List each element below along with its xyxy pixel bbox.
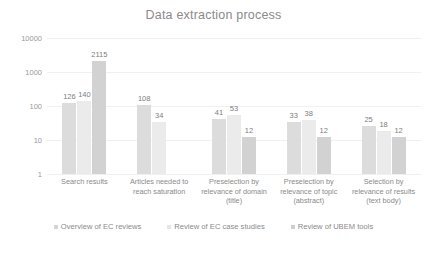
x-axis-category-label: Preselection byrelevance of domain(title…: [197, 177, 272, 206]
bar-slot: 41: [212, 38, 226, 174]
bar[interactable]: [212, 119, 226, 174]
bar-value-label: 25: [364, 115, 372, 124]
bar[interactable]: [317, 137, 331, 174]
bar-slot: [167, 38, 181, 174]
legend-item[interactable]: Review of EC case studies: [167, 222, 264, 231]
bar-group: 10834: [122, 38, 197, 174]
bar[interactable]: [77, 101, 91, 174]
bar-slot: 126: [62, 38, 76, 174]
legend-label: Review of EC case studies: [174, 222, 264, 231]
x-axis-category-label: Selection byrelevance of results(text bo…: [346, 177, 421, 206]
bar-value-label: 38: [305, 109, 313, 118]
bar-value-label: 41: [215, 108, 223, 117]
legend-item[interactable]: Overview of EC reviews: [54, 222, 142, 231]
legend-item[interactable]: Review of UBEM tools: [291, 222, 374, 231]
x-axis-category-label: Articles needed toreach saturation: [122, 177, 197, 196]
legend-swatch-icon: [167, 225, 171, 229]
bar-value-label: 33: [290, 111, 298, 120]
x-axis-category-label: Search results: [47, 177, 122, 187]
bar-value-label: 12: [320, 126, 328, 135]
bar[interactable]: [137, 105, 151, 174]
bar[interactable]: [62, 103, 76, 174]
bar-slot: 140: [77, 38, 91, 174]
bar[interactable]: [92, 61, 106, 174]
y-axis-tick-label: 1: [38, 170, 42, 179]
bar-value-label: 126: [63, 92, 76, 101]
y-axis: 110100100010000: [0, 38, 42, 174]
bar-slot: 25: [362, 38, 376, 174]
bar-slot: 38: [302, 38, 316, 174]
chart-legend: Overview of EC reviewsReview of EC case …: [0, 222, 427, 231]
bar-value-label: 12: [245, 126, 253, 135]
plot-area: 126140211510834415312333812251812: [47, 38, 421, 174]
legend-swatch-icon: [291, 225, 295, 229]
bar-slot: 12: [317, 38, 331, 174]
bar-value-label: 53: [230, 104, 238, 113]
bar-slot: 12: [392, 38, 406, 174]
bar-slot: 18: [377, 38, 391, 174]
gridline: [47, 174, 421, 175]
bar-value-label: 140: [78, 90, 91, 99]
bar-slot: 108: [137, 38, 151, 174]
bar-group: 415312: [197, 38, 272, 174]
bar[interactable]: [392, 137, 406, 174]
y-axis-tick-label: 100: [29, 102, 42, 111]
legend-label: Overview of EC reviews: [61, 222, 142, 231]
bar[interactable]: [377, 131, 391, 174]
chart-title: Data extraction process: [0, 8, 427, 22]
legend-swatch-icon: [54, 225, 58, 229]
bar[interactable]: [287, 122, 301, 174]
bar-slot: 12: [242, 38, 256, 174]
bar-group: 333812: [271, 38, 346, 174]
bar[interactable]: [152, 122, 166, 174]
chart-container: Data extraction process 110100100010000 …: [0, 0, 427, 256]
bar[interactable]: [302, 120, 316, 174]
bar-value-label: 18: [379, 120, 387, 129]
bar-group: 251812: [346, 38, 421, 174]
x-axis-category-labels: Search resultsArticles needed toreach sa…: [47, 177, 421, 217]
bar-value-label: 12: [394, 126, 402, 135]
bar[interactable]: [362, 126, 376, 174]
bar-slot: 34: [152, 38, 166, 174]
y-axis-tick-label: 10: [34, 136, 42, 145]
bar-slot: 33: [287, 38, 301, 174]
y-axis-tick-label: 10000: [21, 34, 42, 43]
legend-label: Review of UBEM tools: [298, 222, 374, 231]
bar-slot: 53: [227, 38, 241, 174]
bar-value-label: 108: [138, 94, 151, 103]
x-axis-category-label: Preselection byrelevance of topic(abstra…: [271, 177, 346, 206]
bar-group: 1261402115: [47, 38, 122, 174]
y-axis-tick-label: 1000: [25, 68, 42, 77]
bar-slot: 2115: [92, 38, 106, 174]
bar[interactable]: [227, 115, 241, 174]
bar[interactable]: [242, 137, 256, 174]
bar-value-label: 34: [155, 111, 163, 120]
bar-value-label: 2115: [91, 50, 107, 59]
